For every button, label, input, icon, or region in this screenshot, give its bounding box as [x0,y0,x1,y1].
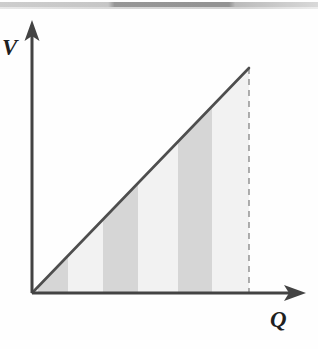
value-quantity-chart [0,0,318,349]
x-axis-label: Q [270,308,287,331]
shaded-band-1 [38,60,68,293]
figure-page: V Q [0,0,318,349]
y-axis-label: V [2,36,17,59]
shaded-band-3 [178,60,212,293]
shaded-band-2 [103,60,138,293]
